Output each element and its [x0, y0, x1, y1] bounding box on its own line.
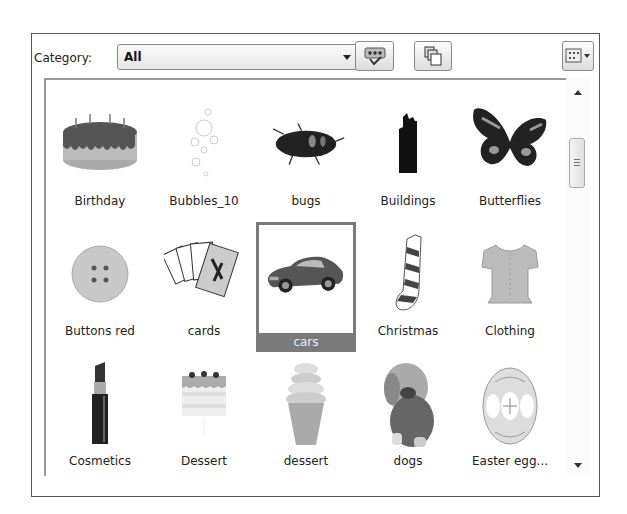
layer-cake-icon — [164, 360, 244, 448]
scroll-thumb[interactable] — [569, 138, 585, 188]
find-similar-button[interactable] — [355, 41, 394, 71]
gallery-item-label: Dessert — [154, 454, 254, 468]
gallery-item-clothing[interactable]: Clothing — [460, 222, 560, 352]
car-icon — [266, 230, 346, 318]
gallery-item-buttons-red[interactable]: Buttons red — [50, 222, 150, 352]
copy-pages-icon — [423, 45, 443, 67]
chevron-down-icon — [343, 55, 351, 60]
butterfly-icon — [470, 100, 550, 188]
gallery-item-label: Buildings — [358, 194, 458, 208]
category-label: Category: — [34, 51, 92, 65]
category-dropdown[interactable]: All — [117, 44, 360, 70]
christmas-stocking-icon — [368, 230, 448, 318]
gallery-item-cars[interactable]: cars — [256, 222, 356, 352]
gallery-item-label: dogs — [358, 454, 458, 468]
gallery-item-dessert[interactable]: Dessert — [154, 352, 254, 482]
gallery-item-bugs[interactable]: bugs — [256, 92, 356, 222]
gallery-item-label: cards — [154, 324, 254, 338]
building-icon — [368, 100, 448, 188]
gallery-item-label: Christmas — [358, 324, 458, 338]
gallery-item-label: cars — [258, 333, 354, 352]
beetle-icon — [266, 100, 346, 188]
gallery-item-cards[interactable]: cards — [154, 222, 254, 352]
scroll-down-arrow-icon[interactable] — [574, 463, 582, 468]
scroll-up-arrow-icon[interactable] — [574, 90, 582, 95]
clip-art-panel: Category: All BirthdayBubbles_10bugsBuil… — [31, 33, 600, 497]
gallery-item-label: Easter egg... — [460, 454, 560, 468]
gallery-item-label: Cosmetics — [50, 454, 150, 468]
gallery-item-buildings[interactable]: Buildings — [358, 92, 458, 222]
gallery-item-easter-egg[interactable]: Easter egg... — [460, 352, 560, 482]
easter-egg-icon — [470, 360, 550, 448]
playing-cards-icon — [164, 230, 244, 318]
speech-bubble-check-icon — [363, 46, 387, 66]
gallery-item-label: Buttons red — [50, 324, 150, 338]
gallery-item-butterflies[interactable]: Butterflies — [460, 92, 560, 222]
lipstick-icon — [60, 360, 140, 448]
grid-view-icon — [565, 48, 591, 64]
category-value: All — [124, 50, 142, 64]
gallery-item-label: Butterflies — [460, 194, 560, 208]
gallery-item-bubbles-10[interactable]: Bubbles_10 — [154, 92, 254, 222]
gallery-item-birthday[interactable]: Birthday — [50, 92, 150, 222]
gallery-item-dogs[interactable]: dogs — [358, 352, 458, 482]
bubbles-icon — [164, 100, 244, 188]
puppy-icon — [368, 360, 448, 448]
vertical-scrollbar[interactable] — [566, 78, 590, 476]
clip-art-gallery: BirthdayBubbles_10bugsBuildingsButterfli… — [44, 78, 566, 476]
gallery-item-label: Birthday — [50, 194, 150, 208]
gallery-item-label: dessert — [256, 454, 356, 468]
birthday-cake-icon — [60, 100, 140, 188]
gallery-item-label: Clothing — [460, 324, 560, 338]
copy-button[interactable] — [414, 41, 452, 71]
blouse-icon — [470, 230, 550, 318]
gallery-item-christmas[interactable]: Christmas — [358, 222, 458, 352]
gallery-item-cosmetics[interactable]: Cosmetics — [50, 352, 150, 482]
ice-cream-cone-icon — [266, 360, 346, 448]
view-options-button[interactable] — [562, 41, 594, 71]
button-icon — [60, 230, 140, 318]
gallery-item-dessert[interactable]: dessert — [256, 352, 356, 482]
gallery-item-label: Bubbles_10 — [154, 194, 254, 208]
gallery-item-label: bugs — [256, 194, 356, 208]
